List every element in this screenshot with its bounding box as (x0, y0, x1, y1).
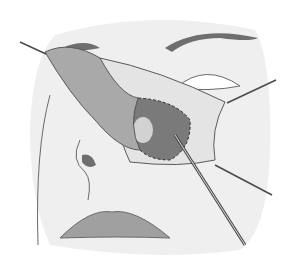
retractor-hook-left (20, 42, 46, 54)
surgical-drawing (0, 0, 294, 266)
medical-illustration (0, 0, 294, 266)
